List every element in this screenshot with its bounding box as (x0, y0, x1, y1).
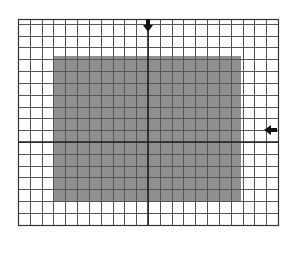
shaded-region (53, 56, 241, 202)
grid-diagram (0, 0, 288, 254)
